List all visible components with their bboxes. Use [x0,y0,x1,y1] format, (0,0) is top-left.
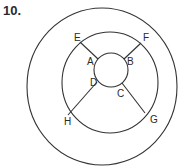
label-g: G [150,114,158,125]
middle-circle [62,32,158,133]
label-b: B [127,56,134,67]
label-e: E [74,32,81,43]
label-f: F [143,32,149,43]
inner-circle [94,53,128,87]
segment-gc [122,83,145,113]
label-h: H [64,116,71,127]
label-c: C [117,88,124,99]
outer-circle [27,8,177,165]
concentric-circles-diagram: E F A B D C H G [0,0,184,168]
label-a: A [87,56,94,67]
label-d: D [90,77,97,88]
